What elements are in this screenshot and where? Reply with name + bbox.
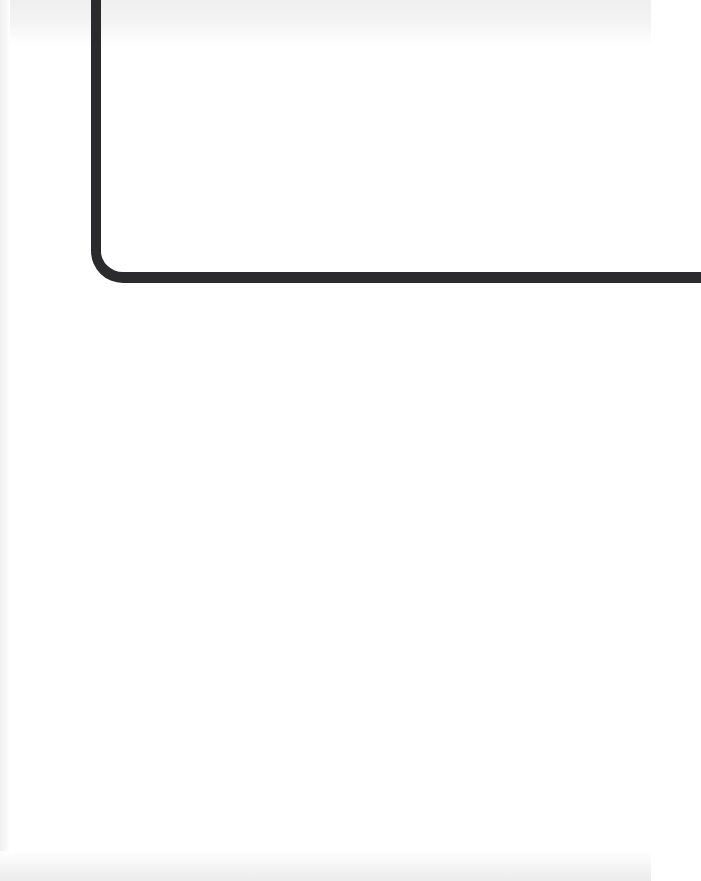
scan-noise-bottom bbox=[0, 851, 651, 881]
scan-noise-left bbox=[0, 0, 10, 881]
rounded-corner-line bbox=[91, 0, 701, 283]
